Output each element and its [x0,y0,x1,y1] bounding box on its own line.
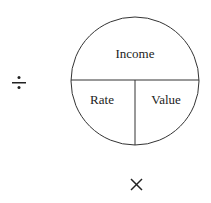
income-label: Income [116,46,155,61]
value-label: Value [151,92,181,107]
multiply-icon [131,179,142,190]
rate-label: Rate [90,92,114,107]
divide-icon [12,76,26,89]
formula-circle-diagram: Income Rate Value [0,0,211,203]
